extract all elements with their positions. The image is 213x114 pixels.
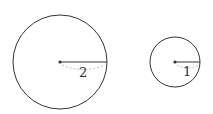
large-circle-group: 2 [13, 15, 107, 109]
circles-diagram: 2 1 [0, 0, 213, 114]
large-circle-radius-label: 2 [79, 65, 87, 80]
small-circle-radius-label: 1 [183, 64, 191, 79]
small-circle-group: 1 [150, 37, 200, 87]
